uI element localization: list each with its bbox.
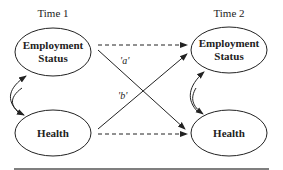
node-t1-employment-line1: Employment bbox=[23, 39, 84, 51]
correlation-t2-down-arrow bbox=[193, 88, 203, 114]
edge-a-employment-to-health bbox=[98, 50, 185, 129]
node-t1-employment-line2: Status bbox=[38, 52, 68, 64]
time-1-label: Time 1 bbox=[37, 7, 68, 19]
node-t1-employment: Employment Status bbox=[15, 28, 91, 76]
node-t2-health-label: Health bbox=[213, 127, 245, 139]
node-t2-employment-line2: Status bbox=[214, 50, 244, 62]
path-label-a: 'a' bbox=[120, 55, 130, 66]
node-t2-employment-line1: Employment bbox=[199, 37, 260, 49]
node-t2-employment: Employment Status bbox=[191, 27, 267, 73]
node-t1-health: Health bbox=[15, 110, 91, 156]
path-diagram: Time 1 Time 2 Employment Status Health E… bbox=[0, 0, 283, 170]
edge-b-health-to-employment bbox=[98, 54, 187, 129]
correlation-t1-down-arrow bbox=[12, 88, 24, 115]
correlation-t2-up-arrow bbox=[190, 72, 204, 112]
path-label-b: 'b' bbox=[118, 90, 128, 101]
time-2-label: Time 2 bbox=[213, 7, 244, 19]
node-t2-health: Health bbox=[191, 110, 267, 156]
correlation-t1-up-arrow bbox=[10, 76, 26, 112]
node-t1-health-label: Health bbox=[37, 127, 69, 139]
